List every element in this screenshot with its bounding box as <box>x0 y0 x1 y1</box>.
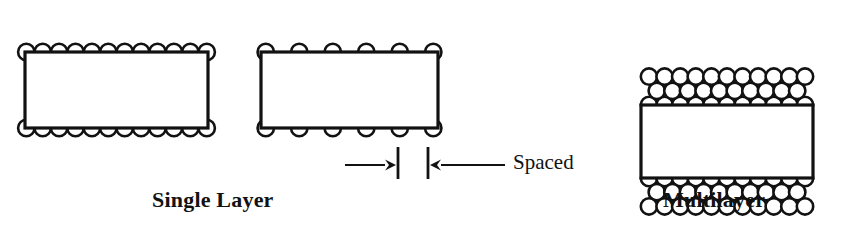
panel-single-layer-close-wound <box>18 44 215 136</box>
caption-single-layer: Single Layer <box>152 187 274 213</box>
coil-turn-top <box>656 68 672 84</box>
coil-turn-top <box>781 68 797 84</box>
coil-turn-top <box>703 68 719 84</box>
coil-turn-bottom <box>766 198 782 214</box>
panel-single-layer-spaced <box>258 44 442 136</box>
coil-winding-figure: Single Layer Multilayer Spaced <box>0 0 841 230</box>
caption-multilayer: Multilayer <box>663 187 765 213</box>
coil-turn-top <box>641 68 657 84</box>
core-rectangle <box>25 52 208 128</box>
coil-turn-top <box>750 68 766 84</box>
dimension-spaced <box>345 147 505 179</box>
dimension-arrow-left-head <box>385 160 396 171</box>
coil-turn-top <box>688 68 704 84</box>
dimension-arrow-right-head <box>430 160 441 171</box>
core-rectangle <box>641 105 813 178</box>
coil-turn-top <box>672 68 688 84</box>
coil-turn-bottom <box>797 198 813 214</box>
coil-turn-top <box>734 68 750 84</box>
coil-turn-top <box>797 68 813 84</box>
coil-turn-top <box>719 68 735 84</box>
coil-turn-bottom <box>781 198 797 214</box>
coil-turn-bottom <box>641 198 657 214</box>
label-spaced: Spaced <box>513 150 574 175</box>
core-rectangle <box>261 52 438 128</box>
coil-turn-top <box>766 68 782 84</box>
